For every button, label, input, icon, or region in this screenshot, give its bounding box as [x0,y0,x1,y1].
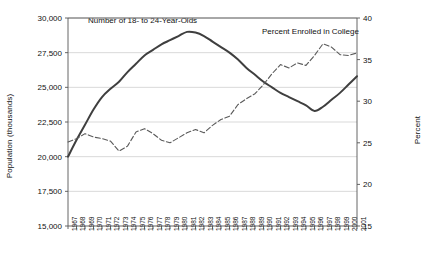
plot-area [0,0,425,272]
chart-container: Population (thousands) Percent 15,00017,… [0,0,425,272]
series-line-2 [68,44,357,151]
series-line-1 [68,32,357,157]
data-series [68,32,357,157]
tick-marks [65,18,360,229]
gridlines [68,18,357,191]
